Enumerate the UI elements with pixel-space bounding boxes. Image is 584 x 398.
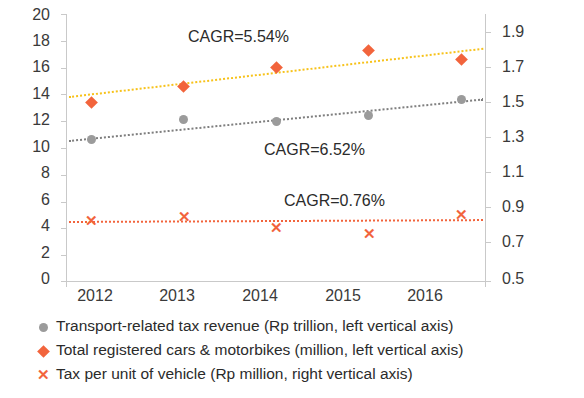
data-point-3-2014: ✕ xyxy=(270,222,282,234)
data-point-2-2016 xyxy=(455,53,468,66)
left-axis-tick-20: 20 xyxy=(6,7,50,23)
annotation-cagr-tax: CAGR=6.52% xyxy=(264,141,365,159)
legend-item-tax-per-unit: ✕ Tax per unit of vehicle (Rp million, r… xyxy=(30,362,574,386)
tick-left-14 xyxy=(61,94,66,95)
right-axis-tick-1-7: 1.7 xyxy=(502,59,552,75)
tick-right-0-5 xyxy=(486,281,491,282)
legend-label-tax-per-unit: Tax per unit of vehicle (Rp million, rig… xyxy=(56,365,413,383)
left-axis-tick-14: 14 xyxy=(6,86,50,102)
legend-label-registered-vehicles: Total registered cars & motorbikes (mill… xyxy=(56,341,463,359)
tick-right-1-9 xyxy=(486,32,491,33)
tick-right-1-7 xyxy=(486,67,491,68)
right-axis-tick-0-9: 0.9 xyxy=(502,199,552,215)
x-axis-label-2012: 2012 xyxy=(60,288,130,304)
tick-left-2 xyxy=(61,255,66,256)
right-axis-tick-0-5: 0.5 xyxy=(502,271,552,287)
data-point-2-2012 xyxy=(85,96,98,109)
data-point-2-2015 xyxy=(362,44,375,57)
tick-left-16 xyxy=(61,68,66,69)
tick-left-12 xyxy=(61,121,66,122)
right-axis-tick-1-3: 1.3 xyxy=(502,129,552,145)
legend-label-tax-revenue: Transport-related tax revenue (Rp trilli… xyxy=(56,317,453,335)
left-axis-tick-16: 16 xyxy=(6,59,50,75)
data-point-1-2016 xyxy=(457,95,466,104)
tick-left-18 xyxy=(61,41,66,42)
legend-diamond-icon xyxy=(30,343,56,358)
tick-left-8 xyxy=(61,175,66,176)
left-axis-tick-18: 18 xyxy=(6,33,50,49)
left-axis-tick-6: 6 xyxy=(6,192,50,208)
right-axis-tick-1-5: 1.5 xyxy=(502,94,552,110)
tick-right-0-7 xyxy=(486,242,491,243)
left-axis-line xyxy=(66,14,67,282)
tick-left-4 xyxy=(61,228,66,229)
legend-item-tax-revenue: Transport-related tax revenue (Rp trilli… xyxy=(30,314,574,338)
tick-x-end xyxy=(485,281,486,287)
tick-right-1-3 xyxy=(486,137,491,138)
annotation-cagr-vehicles: CAGR=5.54% xyxy=(188,28,289,46)
chart-container: 20 18 16 14 12 10 8 6 4 2 0 1.9 1.7 1.5 … xyxy=(0,0,584,398)
left-axis-tick-4: 4 xyxy=(6,218,50,234)
tick-left-20 xyxy=(61,14,66,15)
data-point-3-2016: ✕ xyxy=(455,209,467,221)
right-axis-tick-1-1: 1.1 xyxy=(502,164,552,180)
left-axis-tick-0: 0 xyxy=(6,271,50,287)
x-axis-label-2014: 2014 xyxy=(225,288,295,304)
data-point-3-2015: ✕ xyxy=(363,228,375,240)
tick-x-start xyxy=(66,281,67,287)
legend-item-registered-vehicles: Total registered cars & motorbikes (mill… xyxy=(30,338,574,362)
legend-dot-icon xyxy=(30,319,56,334)
data-point-1-2013 xyxy=(179,115,188,124)
chart-legend: Transport-related tax revenue (Rp trilli… xyxy=(30,314,574,386)
tick-right-0-9 xyxy=(486,207,491,208)
data-point-3-2012: ✕ xyxy=(85,215,97,227)
tick-left-6 xyxy=(61,202,66,203)
x-axis-label-2015: 2015 xyxy=(308,288,378,304)
right-axis-tick-1-9: 1.9 xyxy=(502,24,552,40)
x-axis-line xyxy=(66,281,486,282)
left-axis-tick-2: 2 xyxy=(6,245,50,261)
left-axis-tick-10: 10 xyxy=(6,139,50,155)
left-axis-tick-12: 12 xyxy=(6,112,50,128)
data-point-1-2014 xyxy=(272,117,281,126)
data-point-1-2012 xyxy=(87,135,96,144)
data-point-3-2013: ✕ xyxy=(178,211,190,223)
right-axis-tick-0-7: 0.7 xyxy=(502,234,552,250)
left-axis-tick-8: 8 xyxy=(6,165,50,181)
x-axis-label-2013: 2013 xyxy=(142,288,212,304)
x-axis-label-2016: 2016 xyxy=(390,288,460,304)
annotation-cagr-per-unit: CAGR=0.76% xyxy=(284,192,385,210)
legend-cross-icon: ✕ xyxy=(30,367,56,382)
tick-right-1-5 xyxy=(486,102,491,103)
tick-right-1-1 xyxy=(486,172,491,173)
tick-left-10 xyxy=(61,148,66,149)
data-point-1-2015 xyxy=(364,111,373,120)
